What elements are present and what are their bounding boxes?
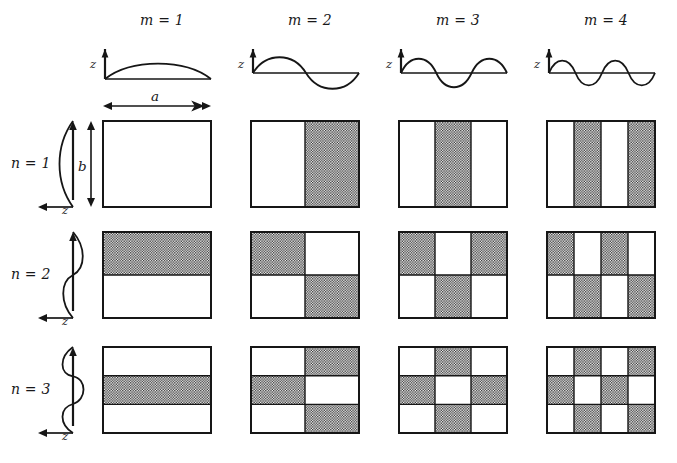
waveguide-mode-figure: m = 1 m = 2 m = 3 m = 4 n = 1 n = 2 n = … bbox=[0, 0, 677, 463]
panel-n3-m4 bbox=[547, 347, 655, 433]
panel-n3-m1 bbox=[103, 347, 211, 433]
top-wave-m1 bbox=[102, 49, 211, 79]
top-wave-m3 bbox=[398, 49, 507, 87]
figure-canvas bbox=[0, 0, 677, 463]
panel-n1-m3 bbox=[399, 121, 507, 207]
panel-n1-m4 bbox=[547, 121, 655, 207]
width-dimension-arrow bbox=[103, 102, 211, 110]
top-wave-m4 bbox=[546, 49, 655, 85]
panel-n1-m2 bbox=[251, 121, 359, 207]
top-wave-m2 bbox=[250, 49, 359, 89]
panel-n2-m3 bbox=[399, 232, 507, 318]
height-dimension-arrow bbox=[87, 121, 95, 207]
side-wave-n3 bbox=[38, 347, 84, 437]
panel-n1-m1 bbox=[103, 121, 211, 207]
panel-n2-m4 bbox=[547, 232, 655, 318]
panel-n2-m2 bbox=[251, 232, 359, 318]
panel-n2-m1 bbox=[103, 232, 211, 318]
side-wave-n2 bbox=[38, 232, 83, 322]
side-wave-n1 bbox=[38, 121, 77, 211]
panel-n3-m2 bbox=[251, 347, 359, 433]
panel-n3-m3 bbox=[399, 347, 507, 433]
